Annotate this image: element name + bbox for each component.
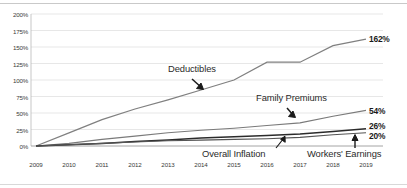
x-tick-2019: 2019 bbox=[351, 161, 381, 168]
series-line-workers-earnings bbox=[36, 129, 366, 146]
x-tick-2018: 2018 bbox=[318, 161, 348, 168]
plot-area bbox=[0, 0, 407, 188]
cumulative-increases-line-chart: 200% 175% 150% 125% 100% 75% 50% 25% 0% bbox=[0, 0, 407, 188]
x-tick-2012: 2012 bbox=[120, 161, 150, 168]
x-tick-2013: 2013 bbox=[153, 161, 183, 168]
x-tick-2016: 2016 bbox=[252, 161, 282, 168]
end-label-deductibles: 162% bbox=[369, 34, 390, 44]
x-tick-2010: 2010 bbox=[54, 161, 84, 168]
deductibles-arrow-icon bbox=[192, 79, 204, 90]
annotation-workers-earnings: Workers' Earnings bbox=[307, 148, 381, 159]
x-tick-2015: 2015 bbox=[219, 161, 249, 168]
x-tick-2014: 2014 bbox=[186, 161, 216, 168]
annotation-deductibles: Deductibles bbox=[168, 63, 216, 74]
x-tick-2009: 2009 bbox=[21, 161, 51, 168]
annotation-overall-inflation: Overall Inflation bbox=[202, 148, 265, 159]
series-line-overall-inflation bbox=[36, 133, 366, 146]
end-label-workers-earnings: 26% bbox=[369, 121, 385, 131]
x-tick-2017: 2017 bbox=[285, 161, 315, 168]
x-tick-2011: 2011 bbox=[87, 161, 117, 168]
annotation-family-premiums: Family Premiums bbox=[256, 92, 327, 103]
end-label-overall-inflation: 20% bbox=[369, 131, 385, 141]
end-label-family-premiums: 54% bbox=[369, 106, 385, 116]
